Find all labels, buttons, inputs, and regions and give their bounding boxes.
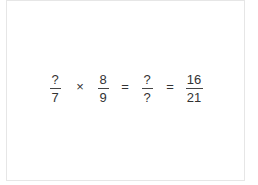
fraction-3-numerator: ? xyxy=(135,72,159,87)
fraction-1-denominator: 7 xyxy=(43,90,67,105)
fraction-bar xyxy=(186,88,203,89)
fraction-1: ? 7 xyxy=(43,72,67,105)
fraction-4-denominator: 21 xyxy=(182,90,206,105)
fraction-4-numerator: 16 xyxy=(182,72,206,87)
problem-card: ? 7 × 8 9 = ? ? = 16 21 xyxy=(6,0,245,181)
fraction-bar xyxy=(50,88,61,89)
fraction-3-denominator: ? xyxy=(135,90,159,105)
equals-operator-2: = xyxy=(163,79,177,94)
fraction-2-denominator: 9 xyxy=(91,90,115,105)
fraction-2-numerator: 8 xyxy=(91,72,115,87)
fraction-3: ? ? xyxy=(135,72,159,105)
fraction-4: 16 21 xyxy=(182,72,206,105)
fraction-1-numerator: ? xyxy=(43,72,67,87)
equals-operator-1: = xyxy=(118,79,132,94)
multiply-operator: × xyxy=(73,79,87,94)
fraction-2: 8 9 xyxy=(91,72,115,105)
fraction-bar xyxy=(142,88,153,89)
fraction-bar xyxy=(98,88,109,89)
